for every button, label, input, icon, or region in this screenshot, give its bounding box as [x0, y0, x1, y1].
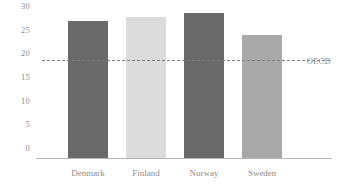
- plot-area: 302520151050 OECD DenmarkFinlandNorwaySw…: [36, 12, 332, 159]
- y-axis-tick-label: 30: [21, 1, 30, 11]
- bar: [126, 17, 166, 158]
- x-axis-tick-label: Finland: [132, 168, 160, 178]
- y-axis-tick-label: 25: [21, 25, 30, 35]
- bar: [184, 13, 224, 158]
- bar: [68, 21, 108, 158]
- x-axis-tick-label: Norway: [190, 168, 219, 178]
- oecd-reference-line: OECD: [42, 60, 330, 61]
- oecd-reference-label: OECD: [307, 56, 331, 66]
- y-axis-tick-label: 10: [21, 96, 30, 106]
- bar-series: [36, 12, 332, 159]
- x-axis-line: [36, 158, 332, 159]
- y-axis-tick-label: 20: [21, 48, 30, 58]
- bar-chart: 302520151050 OECD DenmarkFinlandNorwaySw…: [0, 0, 340, 193]
- bar: [242, 35, 282, 158]
- y-axis-tick-label: 5: [26, 119, 30, 129]
- y-axis-tick-label: 15: [21, 72, 30, 82]
- x-axis-tick-label: Denmark: [71, 168, 105, 178]
- x-axis-tick-label: Sweden: [248, 168, 277, 178]
- y-axis-tick-label: 0: [26, 143, 30, 153]
